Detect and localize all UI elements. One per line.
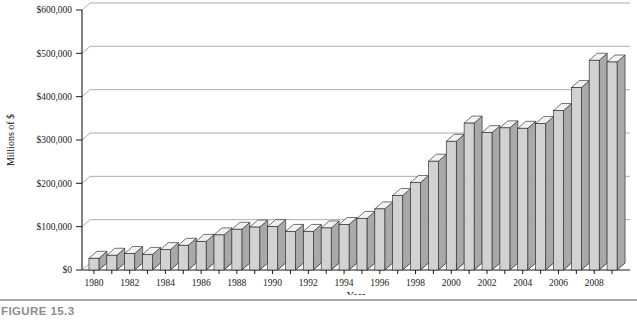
bar-side-face (278, 220, 286, 270)
y-axis-tick-label: $400,000 (36, 92, 72, 102)
x-axis-tick-label: 1990 (263, 278, 282, 288)
bar-front-face (321, 228, 331, 270)
bar-front-face (89, 258, 99, 270)
bar-front-face (482, 133, 492, 270)
bar-front-face (393, 195, 403, 270)
bar-1995 (357, 211, 375, 270)
bar-side-face (385, 202, 393, 270)
bar-side-face (563, 104, 571, 270)
x-axis-tick-label: 1996 (370, 278, 389, 288)
bar-2009 (607, 55, 625, 270)
bar-side-face (438, 154, 446, 270)
bar-front-face (143, 254, 153, 270)
bar-1984 (160, 243, 178, 270)
x-axis-tick-label: 2000 (442, 278, 461, 288)
bar-2005 (536, 117, 554, 270)
bar-front-face (446, 141, 456, 270)
bar-side-face (492, 126, 500, 270)
bar-2008 (589, 53, 607, 270)
gridline (82, 46, 630, 53)
bar-front-face (553, 111, 563, 270)
bar-2007 (571, 81, 589, 270)
bar-front-face (589, 60, 599, 270)
bar-side-face (242, 222, 250, 270)
bar-front-face (339, 225, 349, 271)
bar-side-face (581, 81, 589, 270)
bar-2004 (518, 121, 536, 270)
bar-side-face (617, 55, 625, 270)
bar-front-face (303, 231, 313, 270)
bar-front-face (232, 229, 242, 270)
y-axis-tick-label: $100,000 (36, 222, 72, 232)
bar-side-face (546, 117, 554, 270)
bar-front-face (357, 218, 367, 270)
y-axis-title: Millions of $ (5, 114, 16, 166)
figure-caption-label: FIGURE 15.3 (1, 305, 74, 317)
bar-front-face (196, 241, 206, 270)
chart-plot-area: $0$100,000$200,000$300,000$400,000$500,0… (0, 0, 637, 295)
figure-caption: FIGURE 15.3 (0, 299, 637, 327)
bar-side-face (295, 224, 303, 270)
x-axis-tick-label: 1992 (299, 278, 318, 288)
bar-front-face (125, 254, 135, 270)
bar-1992 (303, 224, 321, 270)
x-axis-tick-label: 1984 (156, 278, 175, 288)
bar-1998 (411, 175, 429, 270)
bar-front-face (536, 124, 546, 270)
bar-1994 (339, 218, 357, 271)
bar-2003 (500, 121, 518, 270)
bar-1991 (285, 224, 303, 270)
bar-front-face (160, 250, 170, 270)
bar-front-face (428, 161, 438, 270)
bar-front-face (250, 227, 260, 270)
bar-2000 (446, 134, 464, 270)
bar-side-face (510, 121, 518, 270)
bar-front-face (268, 227, 278, 270)
bar-front-face (607, 62, 617, 270)
y-axis-tick-label: $0 (63, 265, 73, 275)
x-axis-tick-label: 1998 (406, 278, 425, 288)
bar-side-face (403, 188, 411, 270)
x-axis-tick-label: 1988 (227, 278, 246, 288)
x-axis-tick-label: 1994 (335, 278, 354, 288)
bar-side-face (349, 218, 357, 271)
y-axis-tick-label: $200,000 (36, 179, 72, 189)
bar-1986 (196, 234, 214, 270)
bar-1996 (375, 202, 393, 270)
x-axis-title: Year (347, 290, 366, 295)
bar-side-face (474, 116, 482, 270)
bar-front-face (107, 255, 117, 270)
y-axis-tick-label: $500,000 (36, 49, 72, 59)
bar-chart-svg: $0$100,000$200,000$300,000$400,000$500,0… (0, 0, 637, 295)
figure-container: $0$100,000$200,000$300,000$400,000$500,0… (0, 0, 637, 327)
caption-divider (0, 299, 637, 301)
y-axis-tick-label: $300,000 (36, 135, 72, 145)
bar-1987 (214, 228, 232, 270)
x-axis-tick-label: 1982 (120, 278, 139, 288)
gridline (82, 3, 630, 10)
bar-side-face (313, 224, 321, 270)
bar-1999 (428, 154, 446, 270)
bar-front-face (178, 245, 188, 270)
bar-front-face (285, 231, 295, 270)
bar-1983 (143, 247, 161, 270)
bar-2002 (482, 126, 500, 270)
bar-1981 (107, 248, 125, 270)
x-axis-tick-label: 2002 (478, 278, 497, 288)
bar-front-face (214, 235, 224, 270)
bar-1993 (321, 221, 339, 270)
bar-side-face (367, 211, 375, 270)
bar-1989 (250, 220, 268, 270)
x-axis-tick-label: 2006 (549, 278, 568, 288)
bar-front-face (411, 182, 421, 270)
bar-front-face (464, 123, 474, 270)
bar-side-face (331, 221, 339, 270)
bar-front-face (500, 128, 510, 270)
x-axis-tick-label: 1986 (192, 278, 211, 288)
bar-side-face (421, 175, 429, 270)
bar-1997 (393, 188, 411, 270)
bar-front-face (518, 128, 528, 270)
bar-front-face (375, 209, 385, 270)
y-axis-tick-label: $600,000 (36, 5, 72, 15)
bar-side-face (599, 53, 607, 270)
